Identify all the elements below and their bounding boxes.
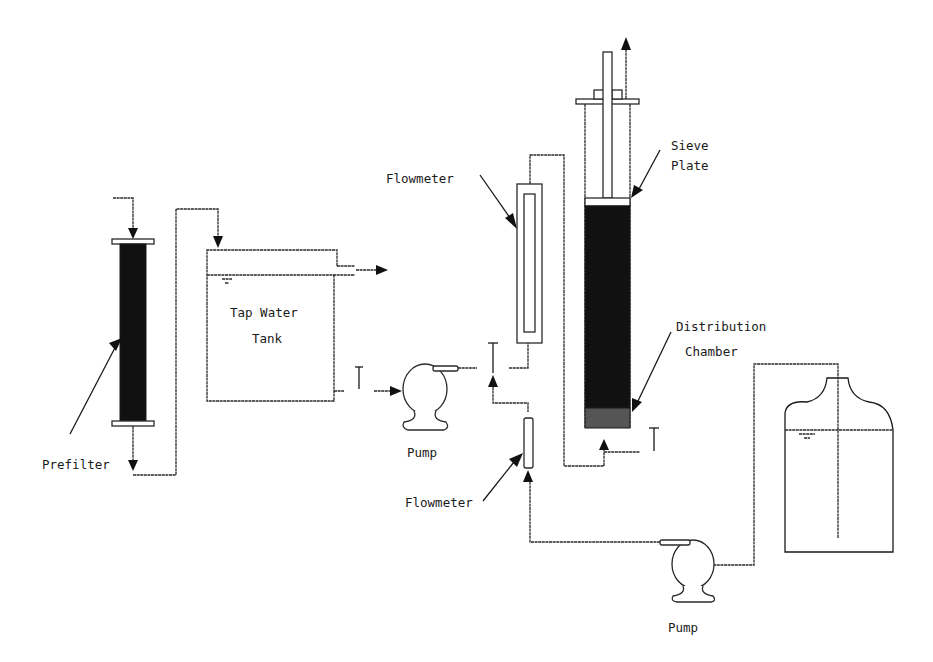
flowmeter-2-tube — [524, 418, 533, 468]
distribution-leader-arrow-icon — [632, 398, 642, 412]
tank-label-line1: Tap Water — [230, 305, 298, 320]
pump-2-body — [672, 540, 714, 588]
tank-outlet-valve-icon — [355, 367, 363, 389]
tank-outline — [207, 250, 337, 401]
prefilter-leader-line — [70, 342, 118, 434]
column-top-fitting-right — [612, 90, 622, 99]
tank-inlet-arrow-icon — [213, 236, 223, 248]
reservoir-outline — [785, 378, 893, 552]
distribution-chamber — [585, 408, 630, 428]
pump-2-outlet — [660, 540, 690, 545]
sieve-plate-leader-line — [639, 150, 660, 189]
sieve-plate — [585, 198, 630, 206]
column-outlet-arrow-icon — [621, 37, 631, 50]
prefilter-outlet-arrow-icon — [128, 460, 138, 471]
prefilter-top-flange — [112, 239, 154, 244]
tap-water-tank: Tap Water Tank — [207, 250, 388, 401]
column-inlet-arrow-icon — [599, 439, 609, 450]
distribution-label-line1: Distribution — [676, 319, 766, 334]
flowmeter-1-leader-arrow-icon — [505, 213, 517, 229]
prefilter-bottom-flange — [112, 421, 154, 426]
prefilter-inlet-arrow-icon — [128, 228, 138, 239]
pump-1-base — [403, 411, 448, 430]
reservoir-bottle — [683, 364, 893, 565]
tank-label-line2: Tank — [252, 331, 283, 346]
column-drain-valve-icon — [649, 428, 659, 451]
sieve-plate-label-line2: Plate — [671, 158, 709, 173]
pump-2-label: Pump — [668, 620, 698, 635]
pump-1-label: Pump — [407, 445, 437, 460]
junction-up-arrow-icon — [488, 375, 498, 387]
flowmeter-1-label: Flowmeter — [386, 171, 454, 186]
column-packing-media — [585, 206, 630, 408]
pump-1-inlet-arrow-icon — [390, 386, 402, 396]
flowmeter-1-inner-tube — [524, 194, 535, 332]
junction-valve-icon — [488, 343, 498, 373]
prefilter-column — [112, 198, 154, 471]
reservoir-suction-pipe — [683, 364, 838, 565]
junction-to-flowmeter-1-pipe — [509, 343, 528, 368]
sieve-plate-label-line1: Sieve — [671, 138, 709, 153]
distribution-leader-line — [638, 332, 671, 401]
flowmeter-2 — [523, 418, 533, 482]
flowmeter-2-to-junction-pipe — [493, 387, 528, 412]
flowmeter-1-leader-line — [480, 175, 510, 218]
sieve-plate-leader-arrow-icon — [631, 185, 643, 198]
distribution-label-line2: Chamber — [685, 344, 738, 359]
overflow-arrow-icon — [376, 265, 388, 275]
pump-1 — [403, 364, 458, 430]
prefilter-inlet-line — [113, 198, 133, 232]
column-center-rod — [603, 52, 612, 198]
flowmeter-2-label: Flowmeter — [405, 495, 473, 510]
prefilter-media — [120, 244, 146, 421]
flowmeter-2-leader-line — [483, 462, 514, 501]
flowmeter-2-inlet-arrow-icon — [523, 470, 533, 482]
pump-2-base — [672, 586, 715, 602]
prefilter-label: Prefilter — [42, 457, 110, 472]
process-flow-diagram: Prefilter Tap Water Tank Pump — [0, 0, 933, 662]
pump-1-outlet — [433, 366, 458, 371]
packed-column — [576, 37, 639, 428]
pump-2 — [660, 540, 715, 602]
pump-2-to-flowmeter-2-pipe — [530, 482, 660, 542]
